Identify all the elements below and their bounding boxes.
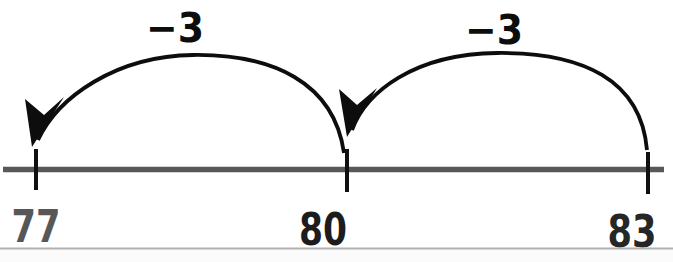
tick-label-83: 83	[608, 205, 657, 258]
jump-label-right: −3	[465, 6, 523, 54]
arrow-head-80-icon	[339, 88, 377, 137]
jump-label-left: −3	[146, 4, 204, 52]
number-line-figure: −3 −3 77 80 83	[0, 0, 673, 262]
arrow-head-77-icon	[25, 97, 64, 147]
tick-label-77: 77	[12, 200, 61, 253]
jump-arc-80-to-77	[38, 55, 344, 153]
jump-arc-83-to-80	[352, 53, 647, 150]
figure-canvas: −3 −3 77 80 83	[0, 0, 673, 262]
